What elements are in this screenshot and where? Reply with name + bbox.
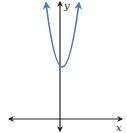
x-axis-label: x [116, 122, 122, 133]
y-axis-label: y [63, 0, 70, 11]
coordinate-plane: y x [0, 0, 127, 133]
parabola-curve [46, 3, 79, 67]
